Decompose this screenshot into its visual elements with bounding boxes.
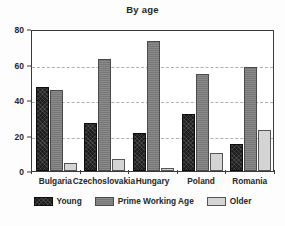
y-tick-mark (27, 136, 31, 137)
y-axis: 020406080 (0, 30, 28, 172)
y-tick-mark (27, 30, 31, 31)
bar-group (133, 31, 174, 171)
bars-layer (32, 31, 273, 171)
legend: YoungPrime Working AgeOlder (0, 196, 285, 206)
bar[interactable] (230, 144, 243, 171)
legend-swatch (34, 197, 53, 206)
x-tick-mark (31, 170, 32, 174)
y-tick-label: 60 (15, 61, 24, 71)
bar[interactable] (210, 153, 223, 171)
bar-group (230, 31, 271, 171)
bar-group (84, 31, 125, 171)
y-tick-mark (27, 101, 31, 102)
legend-swatch (95, 197, 114, 206)
x-tick-label: Hungary (136, 176, 170, 186)
bar[interactable] (147, 41, 160, 171)
bar[interactable] (133, 133, 146, 171)
legend-swatch (207, 197, 226, 206)
bar[interactable] (50, 90, 63, 171)
legend-item[interactable]: Older (207, 196, 252, 206)
bar-group (36, 31, 77, 171)
bar[interactable] (258, 130, 271, 171)
bar[interactable] (244, 67, 257, 171)
x-axis-ticks (31, 170, 274, 175)
bar[interactable] (84, 123, 97, 171)
x-tick-label: Poland (187, 176, 215, 186)
chart-title: By age (0, 4, 285, 15)
x-tick-label: Bulgaria (39, 176, 72, 186)
y-tick-mark (27, 65, 31, 66)
bar-chart: By age 020406080 BulgariaCzechoslovakiaH… (0, 0, 285, 226)
x-tick-mark (177, 170, 178, 174)
bar-group (182, 31, 223, 171)
bar[interactable] (196, 74, 209, 171)
plot-area (31, 30, 274, 172)
bar[interactable] (98, 59, 111, 171)
legend-item[interactable]: Young (34, 196, 82, 206)
legend-label: Young (57, 196, 82, 206)
legend-label: Prime Working Age (118, 196, 194, 206)
y-tick-label: 40 (15, 96, 24, 106)
x-tick-mark (80, 170, 81, 174)
y-tick-label: 20 (15, 132, 24, 142)
x-tick-mark (274, 170, 275, 174)
y-tick-mark (27, 172, 31, 173)
bar[interactable] (36, 87, 49, 171)
x-axis: BulgariaCzechoslovakiaHungaryPolandRoman… (31, 176, 274, 190)
legend-label: Older (230, 196, 252, 206)
x-tick-mark (225, 170, 226, 174)
bar[interactable] (182, 114, 195, 171)
x-tick-mark (128, 170, 129, 174)
x-tick-label: Romania (232, 176, 267, 186)
legend-item[interactable]: Prime Working Age (95, 196, 194, 206)
y-tick-label: 0 (19, 167, 24, 177)
y-tick-label: 80 (15, 25, 24, 35)
x-tick-label: Czechoslovakia (73, 176, 135, 186)
